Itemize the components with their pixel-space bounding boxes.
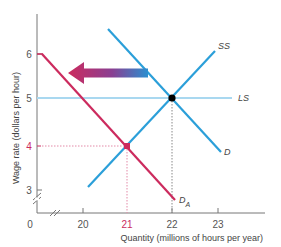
y-axis-title: Wage rate (dollars per hour) (11, 72, 21, 184)
labor-market-chart: 6 5 4 3 0 20 21 22 23 Wage rate (dollars… (0, 0, 281, 247)
y-ticks (37, 54, 42, 190)
y-tick-5: 5 (26, 93, 32, 104)
x-tick-21: 21 (121, 219, 133, 230)
ls-label: LS (238, 93, 249, 103)
y-tick-6: 6 (26, 49, 32, 60)
da-subscript: A (185, 201, 191, 208)
origin-label: 0 (27, 219, 33, 230)
demand-shift-arrow-icon (68, 62, 148, 84)
y-tick-3: 3 (26, 185, 32, 196)
da-label: DA (179, 195, 191, 208)
new-equilibrium-point (124, 143, 130, 149)
y-tick-4: 4 (26, 141, 32, 152)
x-axis-title: Quantity (millions of hours per year) (120, 233, 263, 243)
x-tick-20: 20 (77, 219, 89, 230)
x-tick-22: 22 (166, 219, 178, 230)
x-ticks (83, 208, 218, 213)
d-label: D (224, 147, 231, 157)
x-tick-23: 23 (212, 219, 224, 230)
ss-label: SS (218, 41, 230, 51)
d-curve (108, 29, 221, 152)
initial-equilibrium-point (168, 94, 175, 101)
